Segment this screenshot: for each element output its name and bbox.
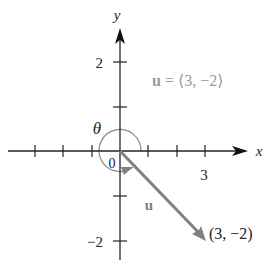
vector-diagram: y x 2 −2 3 0 θ u (3, −2) u = ⟨3, −2⟩ [0, 0, 277, 268]
x-tick-label-3: 3 [200, 167, 208, 183]
vector-u-label: u [145, 197, 153, 213]
vector-equation: u = ⟨3, −2⟩ [152, 72, 223, 89]
endpoint-label: (3, −2) [209, 225, 253, 243]
x-axis-label: x [255, 143, 263, 159]
angle-theta-label: θ [93, 119, 101, 138]
angle-arc-arrowhead-icon [121, 167, 133, 175]
y-tick-label-2: 2 [96, 55, 104, 71]
vector-equation-value: = ⟨3, −2⟩ [161, 72, 224, 89]
origin-label: 0 [109, 156, 116, 171]
vector-u [120, 151, 200, 234]
y-tick-label-neg2: −2 [87, 234, 103, 250]
vector-equation-name: u [152, 72, 161, 89]
y-axis-label: y [112, 7, 121, 23]
